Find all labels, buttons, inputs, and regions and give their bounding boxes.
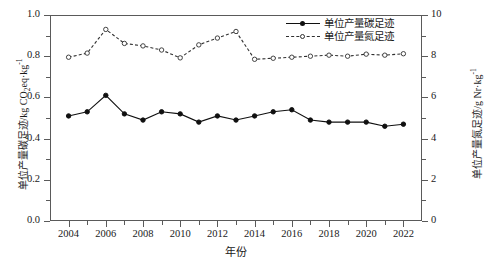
y-left-tick: [44, 15, 50, 16]
y-right-minor-tick: [422, 36, 426, 37]
x-minor-tick: [236, 221, 237, 225]
x-minor-tick: [310, 221, 311, 225]
x-minor-tick: [348, 221, 349, 225]
x-tick-label: 2022: [380, 228, 426, 239]
y-left-minor-tick: [46, 36, 50, 37]
y-right-tick-label: 10: [431, 8, 442, 19]
y-left-tick-label: 0.0: [2, 214, 40, 225]
y-right-minor-tick: [422, 200, 426, 201]
y-right-tick: [422, 15, 428, 16]
x-minor-tick: [273, 221, 274, 225]
y-right-tick-label: 2: [431, 173, 436, 184]
plot-area: [50, 15, 422, 221]
x-minor-tick: [162, 221, 163, 225]
y-right-tick: [422, 221, 428, 222]
x-tick: [106, 221, 107, 227]
y-left-tick: [44, 139, 50, 140]
y-left-tick: [44, 97, 50, 98]
x-minor-tick: [199, 221, 200, 225]
y-left-minor-tick: [46, 200, 50, 201]
y-axis-right-title: 单位产量氮足迹/g Nr·kg-1: [469, 34, 484, 214]
x-tick: [217, 221, 218, 227]
y-right-tick-label: 0: [431, 214, 436, 225]
y-left-minor-tick: [46, 77, 50, 78]
x-tick: [255, 221, 256, 227]
x-axis-title: 年份: [186, 243, 286, 259]
y-axis-left-title: 单位产量碳足迹/kg CO2eq·kg-1: [15, 35, 32, 215]
y-left-tick: [44, 221, 50, 222]
y-left-tick: [44, 56, 50, 57]
x-minor-tick: [385, 221, 386, 225]
y-left-minor-tick: [46, 159, 50, 160]
y-right-minor-tick: [422, 159, 426, 160]
y-right-minor-tick: [422, 77, 426, 78]
y-right-tick: [422, 139, 428, 140]
legend-label-carbon: 单位产量碳足迹: [324, 17, 394, 30]
y-left-minor-tick: [46, 118, 50, 119]
x-minor-tick: [124, 221, 125, 225]
x-tick: [69, 221, 70, 227]
y-right-tick-label: 4: [431, 132, 436, 143]
legend-item-nitrogen: 单位产量氮足迹: [286, 30, 394, 43]
legend-key-nitrogen-icon: [286, 31, 320, 42]
y-left-tick: [44, 180, 50, 181]
x-tick: [366, 221, 367, 227]
chart-legend: 单位产量碳足迹 单位产量氮足迹: [286, 17, 394, 43]
y-right-tick: [422, 180, 428, 181]
y-right-tick-label: 6: [431, 90, 436, 101]
y-left-tick-label: 1.0: [2, 8, 40, 19]
x-tick: [180, 221, 181, 227]
y-right-minor-tick: [422, 118, 426, 119]
x-tick: [329, 221, 330, 227]
y-right-tick-label: 8: [431, 49, 436, 60]
y-right-tick: [422, 56, 428, 57]
y-right-tick: [422, 97, 428, 98]
legend-label-nitrogen: 单位产量氮足迹: [324, 30, 394, 43]
legend-item-carbon: 单位产量碳足迹: [286, 17, 394, 30]
x-minor-tick: [87, 221, 88, 225]
x-tick: [292, 221, 293, 227]
x-tick: [143, 221, 144, 227]
x-tick: [403, 221, 404, 227]
legend-key-carbon-icon: [286, 18, 320, 29]
